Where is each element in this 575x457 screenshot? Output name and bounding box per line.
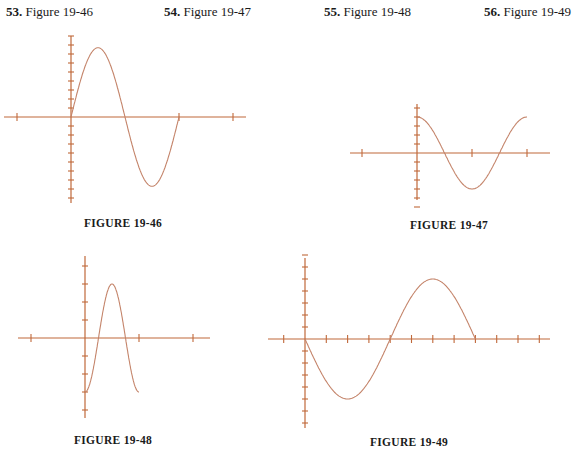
plots-canvas <box>0 0 575 457</box>
